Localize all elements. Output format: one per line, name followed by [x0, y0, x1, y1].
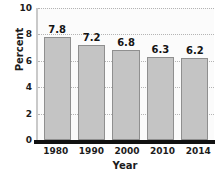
bar-chart-figure: Percent 0246810 7.87.26.86.36.2 19801990…	[0, 0, 220, 176]
y-tick-label: 2	[16, 109, 32, 118]
x-tick-label: 2000	[109, 146, 145, 156]
bar-slot: 6.3	[143, 8, 177, 140]
bar[interactable]	[147, 57, 174, 140]
bar-value-label: 6.8	[117, 37, 135, 48]
x-tick-label: 1980	[38, 146, 74, 156]
x-axis-baseline	[34, 140, 215, 144]
bar-slot: 7.8	[40, 8, 74, 140]
y-tick-label: 10	[16, 4, 32, 13]
y-tick-label: 4	[16, 83, 32, 92]
bar-value-label: 6.2	[186, 45, 204, 56]
bar-value-label: 7.2	[83, 32, 101, 43]
x-tick-label: 2014	[180, 146, 216, 156]
y-tick-label: 6	[16, 56, 32, 65]
plot-area: 7.87.26.86.36.2	[36, 8, 214, 140]
x-tick-label: 2010	[145, 146, 181, 156]
bar-slot: 6.8	[109, 8, 143, 140]
y-tick-label: 8	[16, 30, 32, 39]
bar-slot: 6.2	[178, 8, 212, 140]
bar-value-label: 6.3	[152, 44, 170, 55]
y-tick-label: 0	[16, 136, 32, 145]
bars-layer: 7.87.26.86.36.2	[38, 8, 214, 140]
bar[interactable]	[44, 37, 71, 140]
bar[interactable]	[78, 45, 105, 140]
x-tick-label: 1990	[74, 146, 110, 156]
bar-slot: 7.2	[74, 8, 108, 140]
x-axis-tick-labels: 19801990200020102014	[38, 146, 216, 156]
bar[interactable]	[181, 58, 208, 140]
y-axis-tick-labels: 0246810	[16, 8, 32, 140]
bar-value-label: 7.8	[48, 24, 66, 35]
bar[interactable]	[112, 50, 139, 140]
x-axis-title: Year	[36, 160, 214, 171]
